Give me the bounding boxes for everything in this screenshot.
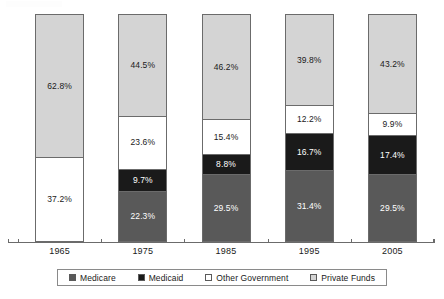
x-axis-tick-2 [184, 239, 185, 243]
segment-value-label: 9.9% [383, 120, 403, 129]
plot-area: 62.8%37.2%44.5%23.6%9.7%22.3%46.2%15.4%8… [18, 14, 434, 242]
legend-item-private-funds[interactable]: Private Funds [308, 273, 377, 283]
segment-value-label: 62.8% [47, 82, 72, 91]
bar-segment-1975-other-government[interactable]: 23.6% [119, 116, 166, 169]
segment-value-label: 9.7% [133, 176, 153, 185]
bar-segment-1975-medicaid[interactable]: 9.7% [119, 169, 166, 191]
chart-legend: MedicareMedicaidOther GovernmentPrivate … [57, 269, 387, 286]
bar-segment-1965-other-government[interactable]: 37.2% [36, 157, 83, 241]
x-axis-left-cap [8, 239, 9, 243]
bar-segment-1965-private-funds[interactable]: 62.8% [36, 15, 83, 157]
x-axis-label-2005: 2005 [351, 246, 434, 256]
bar-segment-1985-private-funds[interactable]: 46.2% [203, 15, 250, 119]
segment-value-label: 22.3% [130, 212, 155, 221]
x-axis-tick-1 [101, 239, 102, 243]
x-axis-labels: 19651975198519952005 [18, 246, 434, 256]
segment-value-label: 39.8% [297, 56, 322, 65]
segment-value-label: 15.4% [214, 133, 239, 142]
bar-segment-1995-other-government[interactable]: 12.2% [286, 105, 333, 133]
x-axis-label-1975: 1975 [101, 246, 184, 256]
stacked-bar-2005[interactable]: 43.2%9.9%17.4%29.5% [368, 14, 417, 242]
bar-segment-1985-other-government[interactable]: 15.4% [203, 119, 250, 154]
legend-swatch-private-funds [310, 274, 317, 281]
bar-segment-2005-other-government[interactable]: 9.9% [369, 113, 416, 135]
bar-slot-2005: 43.2%9.9%17.4%29.5% [351, 14, 434, 242]
x-axis-line [8, 242, 434, 243]
segment-value-label: 46.2% [214, 63, 239, 72]
stacked-bar-1985[interactable]: 46.2%15.4%8.8%29.5% [202, 14, 251, 242]
legend-swatch-other-government [205, 274, 212, 281]
segment-value-label: 29.5% [214, 204, 239, 213]
bar-segment-2005-medicare[interactable]: 29.5% [369, 174, 416, 241]
segment-value-label: 31.4% [297, 202, 322, 211]
x-axis-tick-5 [434, 239, 435, 243]
segment-value-label: 23.6% [130, 138, 155, 147]
stacked-bar-1965[interactable]: 62.8%37.2% [35, 14, 84, 242]
legend-swatch-medicare [69, 274, 76, 281]
segment-value-label: 16.7% [297, 148, 322, 157]
legend-item-other-government[interactable]: Other Government [203, 273, 290, 283]
legend-item-medicaid[interactable]: Medicaid [136, 273, 186, 283]
segment-value-label: 43.2% [380, 60, 405, 69]
bar-segment-1975-medicare[interactable]: 22.3% [119, 191, 166, 241]
bar-slot-1975: 44.5%23.6%9.7%22.3% [101, 14, 184, 242]
bar-group-container: 62.8%37.2%44.5%23.6%9.7%22.3%46.2%15.4%8… [18, 14, 434, 242]
bar-slot-1965: 62.8%37.2% [18, 14, 101, 242]
stacked-bar-1995[interactable]: 39.8%12.2%16.7%31.4% [285, 14, 334, 242]
top-edge-artifact [6, 1, 62, 7]
x-axis-tick-0 [18, 239, 19, 243]
segment-value-label: 17.4% [380, 151, 405, 160]
legend-label: Medicare [80, 273, 116, 283]
stacked-bar-chart: 62.8%37.2%44.5%23.6%9.7%22.3%46.2%15.4%8… [0, 0, 444, 299]
bar-slot-1995: 39.8%12.2%16.7%31.4% [268, 14, 351, 242]
bar-slot-1985: 46.2%15.4%8.8%29.5% [184, 14, 267, 242]
bar-segment-1985-medicare[interactable]: 29.5% [203, 174, 250, 241]
segment-value-label: 29.5% [380, 204, 405, 213]
bar-segment-1975-private-funds[interactable]: 44.5% [119, 15, 166, 116]
legend-item-medicare[interactable]: Medicare [67, 273, 118, 283]
segment-value-label: 37.2% [47, 195, 72, 204]
legend-label: Private Funds [321, 273, 375, 283]
stacked-bar-1975[interactable]: 44.5%23.6%9.7%22.3% [118, 14, 167, 242]
x-axis-label-1965: 1965 [18, 246, 101, 256]
bar-segment-1995-medicaid[interactable]: 16.7% [286, 133, 333, 171]
bar-segment-1995-medicare[interactable]: 31.4% [286, 170, 333, 241]
x-axis-label-1985: 1985 [184, 246, 267, 256]
bar-segment-2005-medicaid[interactable]: 17.4% [369, 135, 416, 174]
x-axis-tick-4 [351, 239, 352, 243]
segment-value-label: 12.2% [297, 115, 322, 124]
x-axis-tick-3 [268, 239, 269, 243]
segment-value-label: 44.5% [130, 61, 155, 70]
segment-value-label: 8.8% [216, 160, 236, 169]
bar-segment-1995-private-funds[interactable]: 39.8% [286, 15, 333, 105]
legend-label: Other Government [216, 273, 288, 283]
legend-label: Medicaid [149, 273, 184, 283]
x-axis-label-1995: 1995 [268, 246, 351, 256]
bar-segment-2005-private-funds[interactable]: 43.2% [369, 15, 416, 113]
legend-swatch-medicaid [138, 274, 145, 281]
bar-segment-1985-medicaid[interactable]: 8.8% [203, 154, 250, 174]
